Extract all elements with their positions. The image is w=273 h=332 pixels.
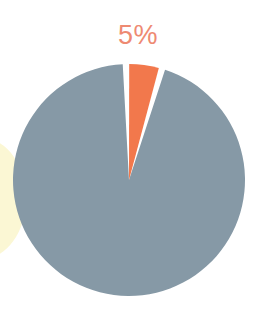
pie-slice-remainder (13, 64, 245, 296)
pie-chart-figure: 5% (0, 0, 273, 332)
pie-slice-value-label: 5% (118, 22, 158, 49)
